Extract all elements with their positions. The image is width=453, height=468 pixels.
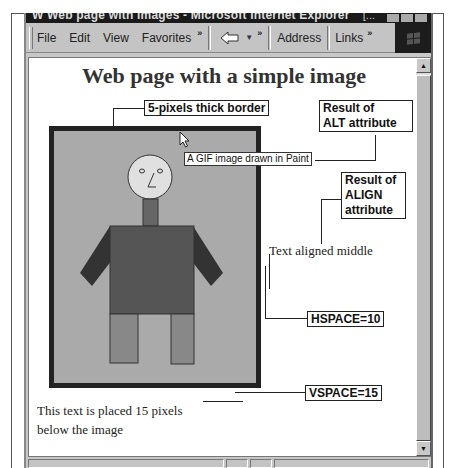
alt-callout-line2: ALT attribute <box>323 116 409 131</box>
minimize-button[interactable] <box>387 14 399 22</box>
callout-line <box>315 160 376 161</box>
callout-line <box>265 266 266 318</box>
below-text-line1: This text is placed 15 pixels <box>37 403 183 419</box>
callout-line <box>235 392 305 393</box>
align-callout: Result of ALIGN attribute <box>341 172 406 219</box>
toolbar-grip[interactable] <box>29 27 33 49</box>
toolbar: File Edit View Favorites » ▼ » Address L… <box>26 23 431 53</box>
aligned-text: Text aligned middle <box>269 243 373 259</box>
toolbar-separator <box>208 26 211 50</box>
mouse-cursor-icon <box>179 131 191 153</box>
links-button[interactable]: Links <box>335 31 363 45</box>
status-cell-zone <box>274 459 429 468</box>
toolbar-separator <box>268 26 271 50</box>
callout-line <box>375 135 376 160</box>
menu-favorites[interactable]: Favorites <box>142 31 191 45</box>
alt-callout: Result of ALT attribute <box>319 100 413 132</box>
menu-chevron-icon[interactable]: » <box>197 28 202 38</box>
maximize-button[interactable] <box>401 14 413 22</box>
hspace-callout: HSPACE=10 <box>307 311 384 327</box>
menu-file[interactable]: File <box>37 31 56 45</box>
callout-line <box>203 401 243 402</box>
border-callout: 5-pixels thick border <box>144 100 269 116</box>
close-button[interactable] <box>415 14 427 22</box>
vspace-callout: VSPACE=15 <box>305 385 382 401</box>
scroll-thumb[interactable] <box>416 75 431 441</box>
callout-line <box>321 199 322 244</box>
status-cell <box>226 459 248 468</box>
callout-line <box>265 318 307 319</box>
window-title: W Web page with images - Microsoft Inter… <box>32 13 350 22</box>
address-label[interactable]: Address <box>275 29 323 47</box>
alt-callout-line1: Result of <box>323 101 409 116</box>
windows-logo-icon <box>395 23 431 53</box>
below-text-line2: below the image <box>37 422 123 438</box>
callout-line <box>113 108 144 109</box>
menu-edit[interactable]: Edit <box>69 31 90 45</box>
align-callout-line1: Result of <box>345 173 402 188</box>
alt-tooltip: A GIF image drawn in Paint <box>184 152 312 166</box>
status-cell-main <box>28 459 224 468</box>
callout-line <box>113 108 114 126</box>
scroll-up-button[interactable]: ▲ <box>416 58 431 73</box>
page-title: Web page with a simple image <box>29 63 419 89</box>
title-bar: W Web page with images - Microsoft Inter… <box>26 13 431 23</box>
browser-window: W Web page with images - Microsoft Inter… <box>24 13 433 468</box>
callout-line <box>269 254 270 289</box>
links-chevron-icon[interactable]: » <box>367 28 372 38</box>
status-cell <box>250 459 272 468</box>
title-ellipsis: [... <box>363 13 375 21</box>
align-callout-line2: ALIGN <box>345 188 402 203</box>
back-arrow-icon[interactable] <box>220 31 240 45</box>
scroll-down-button[interactable]: ▼ <box>416 441 431 456</box>
status-bar <box>28 458 431 468</box>
callout-line <box>321 199 341 200</box>
toolbar-chevron-icon[interactable]: » <box>257 28 262 38</box>
back-dropdown-icon[interactable]: ▼ <box>245 33 253 42</box>
align-callout-line3: attribute <box>345 203 402 218</box>
toolbar-separator <box>327 26 330 50</box>
page-viewport: Web page with a simple image 5-pixels th… <box>28 57 431 457</box>
menu-view[interactable]: View <box>103 31 129 45</box>
vertical-scrollbar[interactable]: ▲ ▼ <box>416 58 431 456</box>
